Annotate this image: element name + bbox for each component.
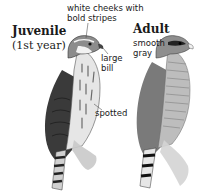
hawk-age-comparison-figure: Juvenile (1st year) white cheeks with bo… <box>0 0 218 196</box>
bill-annotation-line2: bill <box>101 63 123 73</box>
juvenile-title: Juvenile <box>12 24 67 38</box>
smooth-gray-annotation-line1: smooth <box>133 38 165 48</box>
smooth-gray-annotation: smooth gray <box>133 38 165 58</box>
bill-annotation-line1: large <box>101 53 123 63</box>
bill-annotation: large bill <box>101 53 123 73</box>
juvenile-subtitle: (1st year) <box>12 39 66 52</box>
adult-title: Adult <box>133 22 170 36</box>
cheeks-annotation-line1: white cheeks with <box>67 3 144 13</box>
cheeks-annotation: white cheeks with bold stripes <box>67 3 144 23</box>
adult-hawk-illustration <box>137 36 193 188</box>
spotted-annotation: spotted <box>95 108 127 118</box>
smooth-gray-annotation-line2: gray <box>133 48 165 58</box>
